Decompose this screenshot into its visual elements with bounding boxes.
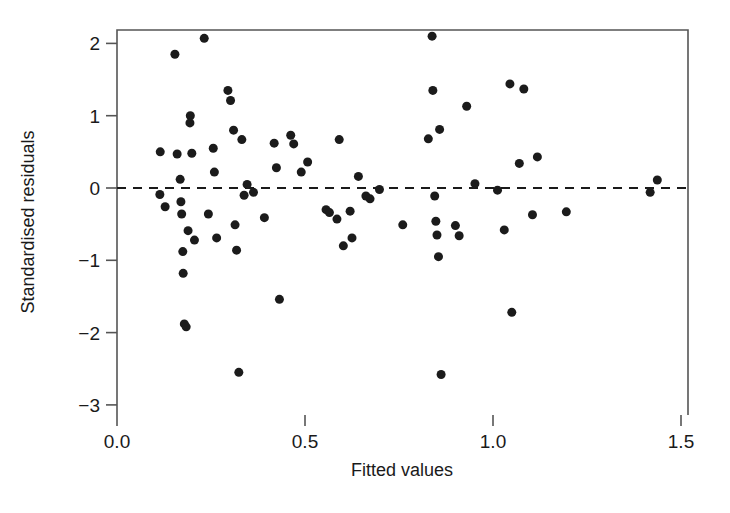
data-point bbox=[184, 226, 193, 235]
data-point bbox=[187, 149, 196, 158]
data-point bbox=[200, 34, 209, 43]
data-point bbox=[176, 175, 185, 184]
data-point bbox=[161, 202, 170, 211]
data-point bbox=[335, 135, 344, 144]
data-point bbox=[653, 176, 662, 185]
y-tick-label: 0 bbox=[89, 178, 100, 199]
x-tick-label: 1.5 bbox=[668, 431, 694, 452]
data-point bbox=[286, 131, 295, 140]
data-point bbox=[346, 207, 355, 216]
data-point bbox=[493, 186, 502, 195]
data-point bbox=[173, 150, 182, 159]
data-point bbox=[156, 147, 165, 156]
data-point bbox=[212, 233, 221, 242]
data-point bbox=[275, 295, 284, 304]
y-tick-label: −2 bbox=[78, 323, 100, 344]
data-point bbox=[366, 194, 375, 203]
data-point bbox=[451, 221, 460, 230]
data-point bbox=[562, 207, 571, 216]
data-point bbox=[249, 188, 258, 197]
data-point bbox=[375, 185, 384, 194]
y-axis: 210−1−2−3 bbox=[78, 33, 117, 416]
data-point bbox=[431, 217, 440, 226]
data-point bbox=[434, 252, 443, 261]
data-point bbox=[223, 86, 232, 95]
data-point bbox=[232, 246, 241, 255]
data-point bbox=[354, 172, 363, 181]
data-point bbox=[519, 84, 528, 93]
data-point bbox=[229, 126, 238, 135]
data-point bbox=[210, 168, 219, 177]
data-point bbox=[155, 190, 164, 199]
data-point bbox=[437, 370, 446, 379]
x-tick-label: 0.0 bbox=[104, 431, 130, 452]
data-points bbox=[155, 32, 661, 379]
data-point bbox=[289, 139, 298, 148]
data-point bbox=[303, 157, 312, 166]
residual-scatter-plot: 210−1−2−3 0.00.51.01.5 Fitted values Sta… bbox=[0, 0, 730, 513]
data-point bbox=[507, 308, 516, 317]
data-point bbox=[178, 247, 187, 256]
x-tick-label: 1.0 bbox=[480, 431, 506, 452]
data-point bbox=[182, 322, 191, 331]
data-point bbox=[435, 125, 444, 134]
data-point bbox=[209, 144, 218, 153]
data-point bbox=[204, 210, 213, 219]
data-point bbox=[231, 220, 240, 229]
data-point bbox=[455, 231, 464, 240]
y-tick-label: −1 bbox=[78, 250, 100, 271]
data-point bbox=[430, 191, 439, 200]
data-point bbox=[179, 269, 188, 278]
data-point bbox=[432, 231, 441, 240]
y-axis-title: Standardised residuals bbox=[18, 130, 38, 313]
data-point bbox=[428, 32, 437, 41]
data-point bbox=[505, 79, 514, 88]
y-tick-label: 2 bbox=[89, 33, 100, 54]
data-point bbox=[398, 220, 407, 229]
data-point bbox=[332, 215, 341, 224]
data-point bbox=[170, 50, 179, 59]
data-point bbox=[428, 86, 437, 95]
data-point bbox=[325, 208, 334, 217]
data-point bbox=[243, 180, 252, 189]
x-tick-label: 0.5 bbox=[292, 431, 318, 452]
data-point bbox=[528, 210, 537, 219]
data-point bbox=[646, 188, 655, 197]
data-point bbox=[186, 111, 195, 120]
data-point bbox=[226, 96, 235, 105]
data-point bbox=[339, 241, 348, 250]
data-point bbox=[176, 197, 185, 206]
data-point bbox=[260, 213, 269, 222]
data-point bbox=[237, 135, 246, 144]
y-tick-label: −3 bbox=[78, 395, 100, 416]
data-point bbox=[470, 179, 479, 188]
data-point bbox=[270, 139, 279, 148]
data-point bbox=[424, 134, 433, 143]
data-point bbox=[500, 225, 509, 234]
data-point bbox=[177, 210, 186, 219]
data-point bbox=[240, 191, 249, 200]
data-point bbox=[515, 159, 524, 168]
data-point bbox=[462, 102, 471, 111]
data-point bbox=[348, 233, 357, 242]
x-axis: 0.00.51.01.5 bbox=[104, 415, 694, 452]
y-tick-label: 1 bbox=[89, 106, 100, 127]
x-axis-title: Fitted values bbox=[351, 460, 453, 480]
data-point bbox=[272, 163, 281, 172]
data-point bbox=[234, 368, 243, 377]
data-point bbox=[190, 236, 199, 245]
data-point bbox=[297, 168, 306, 177]
data-point bbox=[533, 152, 542, 161]
